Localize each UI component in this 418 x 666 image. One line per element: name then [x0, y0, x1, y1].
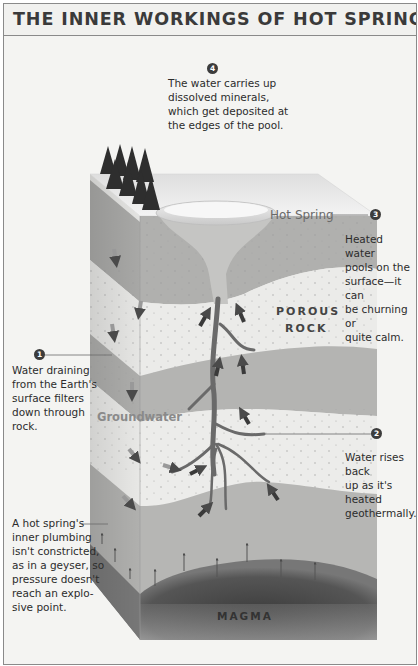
groundwater-label: Groundwater [97, 410, 182, 424]
callout-badge-2: 2 [371, 428, 382, 439]
callout-badge-3: 3 [370, 209, 381, 220]
infographic-frame: THE INNER WORKINGS OF HOT SPRINGS [3, 3, 417, 665]
callout-text-2: Water rises back up as it's heated geoth… [345, 450, 416, 520]
callout-badge-1: 1 [34, 349, 45, 360]
porous-rock-label-2: ROCK [285, 322, 327, 335]
callout-text-3: Heated water pools on the surface—it can… [345, 232, 416, 344]
callout-badge-4: 4 [207, 63, 218, 74]
magma-label: MAGMA [217, 610, 273, 622]
callout-text-1: Water draining from the Earth's surface … [12, 363, 97, 433]
callout-text-4: The water carries up dissolved minerals,… [168, 76, 288, 132]
callout-text-plumbing: A hot spring's inner plumbing isn't cons… [12, 516, 104, 614]
hot-spring-label: Hot Spring [270, 208, 334, 222]
front-face [140, 216, 377, 640]
porous-rock-label-1: POROUS [276, 305, 340, 318]
